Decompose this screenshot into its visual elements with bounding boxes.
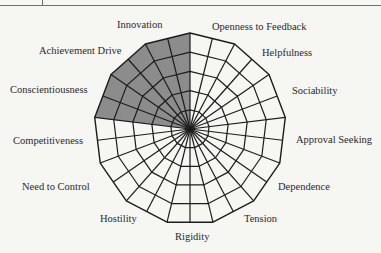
axis-label: Approval Seeking (296, 135, 372, 146)
axis-label: Conscientiousness (10, 85, 88, 96)
axis-label: Dependence (278, 182, 330, 193)
axis-label: Openness to Feedback (212, 22, 306, 33)
axis-label: Competitiveness (13, 136, 83, 147)
axis-label: Helpfulness (262, 48, 312, 59)
radar-chart (0, 0, 381, 253)
axis-label: Achievement Drive (39, 46, 122, 57)
axis-label: Hostility (100, 214, 137, 225)
axis-label: Innovation (117, 20, 163, 31)
axis-label: Tension (244, 214, 277, 225)
axis-label: Need to Control (22, 182, 90, 193)
axis-label: Rigidity (175, 232, 209, 243)
radar-grid (95, 33, 286, 222)
axis-label: Sociability (292, 86, 338, 97)
